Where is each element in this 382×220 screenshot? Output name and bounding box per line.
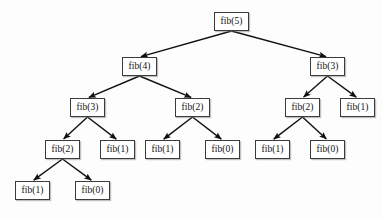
- tree-node-n9: fib(1): [145, 140, 180, 159]
- tree-edge-n7-n13: [34, 159, 63, 180]
- tree-edge-n1-n4: [140, 76, 192, 97]
- tree-node-n5: fib(2): [285, 98, 320, 117]
- tree-edge-n3-n7: [64, 117, 88, 139]
- tree-edge-n5-n12: [303, 117, 327, 139]
- tree-node-n11: fib(1): [255, 140, 290, 159]
- tree-edge-n3-n8: [88, 117, 117, 139]
- tree-edge-n7-n14: [63, 159, 92, 180]
- tree-node-n2: fib(3): [310, 57, 345, 76]
- tree-node-n3: fib(3): [70, 98, 105, 117]
- tree-node-n6: fib(1): [340, 98, 375, 117]
- tree-node-n12: fib(0): [310, 140, 345, 159]
- tree-edge-n0-n2: [232, 31, 327, 57]
- tree-node-n14: fib(0): [75, 181, 110, 200]
- tree-edge-n0-n1: [141, 31, 232, 57]
- recursion-tree-diagram: fib(5)fib(4)fib(3)fib(3)fib(2)fib(2)fib(…: [0, 0, 382, 220]
- tree-edge-n2-n5: [304, 76, 328, 97]
- tree-edge-n2-n6: [328, 76, 357, 97]
- tree-node-n1: fib(4): [122, 57, 157, 76]
- tree-node-n7: fib(2): [45, 140, 80, 159]
- tree-node-n13: fib(1): [15, 181, 50, 200]
- tree-node-n8: fib(1): [100, 140, 135, 159]
- tree-edge-n5-n11: [274, 117, 303, 139]
- tree-edge-n1-n3: [89, 76, 140, 97]
- tree-node-n4: fib(2): [175, 98, 210, 117]
- tree-node-n0: fib(5): [214, 12, 249, 31]
- tree-edge-n4-n10: [193, 117, 222, 139]
- tree-edge-n4-n9: [164, 117, 193, 139]
- tree-node-n10: fib(0): [205, 140, 240, 159]
